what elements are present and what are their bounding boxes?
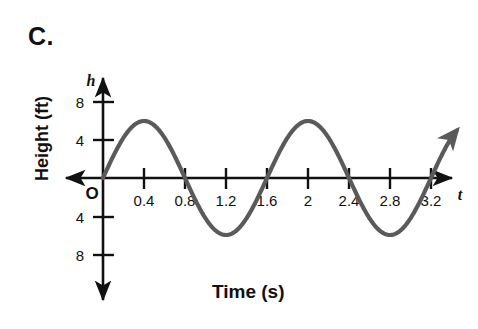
graph-figure: C. Height (ft) Time (s) (0, 0, 478, 329)
y-tick-label-8-negative: 8 (76, 247, 84, 264)
origin-label: O (85, 184, 98, 203)
y-axis-variable-label: h (87, 72, 96, 89)
x-tick-label-2-8: 2.8 (380, 192, 401, 209)
x-axis-variable-label: t (458, 186, 463, 203)
y-tick-label-4-positive: 4 (76, 132, 84, 149)
y-tick-label-4-negative: 4 (76, 209, 84, 226)
x-tick-label-0-4: 0.4 (134, 192, 155, 209)
x-tick-label-1-2: 1.2 (216, 192, 237, 209)
y-tick-label-8-positive: 8 (76, 94, 84, 111)
coordinate-plane: 8 4 4 8 0.4 0.8 1.2 1.6 2 2.4 2.8 3.2 h … (0, 0, 478, 329)
x-tick-label-2: 2 (304, 192, 312, 209)
